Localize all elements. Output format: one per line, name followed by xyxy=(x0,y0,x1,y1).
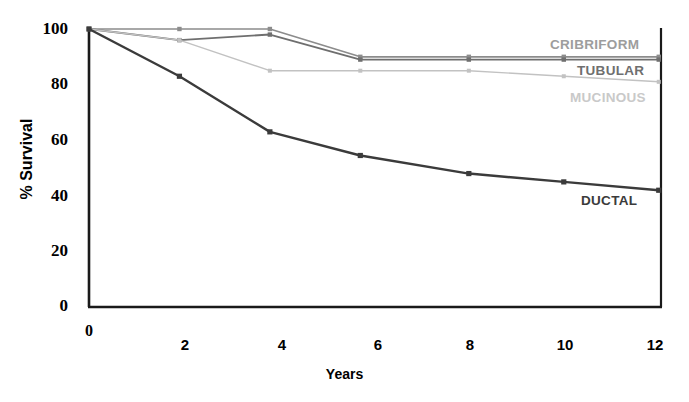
data-point-marker xyxy=(657,80,661,84)
y-tick-40: 40 xyxy=(22,186,68,206)
x-tick-2: 2 xyxy=(165,336,205,353)
series-label-ductal: DUCTAL xyxy=(581,193,637,208)
series-line-ductal xyxy=(89,29,659,190)
y-tick-100: 100 xyxy=(22,19,68,39)
data-point-marker xyxy=(177,74,182,79)
data-point-marker xyxy=(268,27,272,31)
y-tick-80: 80 xyxy=(22,74,68,94)
y-tick-60: 60 xyxy=(22,130,68,150)
x-axis-title: Years xyxy=(0,366,689,382)
data-point-marker xyxy=(177,38,181,42)
x-tick-10: 10 xyxy=(545,336,585,353)
data-point-marker xyxy=(86,26,91,31)
data-point-marker xyxy=(466,171,471,176)
data-point-marker xyxy=(358,57,362,61)
data-point-marker xyxy=(177,27,181,31)
data-point-marker xyxy=(358,153,363,158)
x-tick-6: 6 xyxy=(358,336,398,353)
data-point-marker xyxy=(657,57,661,61)
x-tick-0: 0 xyxy=(69,322,109,340)
x-tick-4: 4 xyxy=(262,336,302,353)
plot-frame xyxy=(88,28,662,307)
series-label-mucinous: MUCINOUS xyxy=(570,90,646,105)
data-point-marker xyxy=(562,74,566,78)
data-point-marker xyxy=(268,69,272,73)
data-point-marker xyxy=(467,57,471,61)
data-point-marker xyxy=(358,69,362,73)
data-point-marker xyxy=(656,188,661,193)
survival-chart: % Survival Years 100 80 60 40 20 0 0 2 4… xyxy=(0,0,689,402)
y-tick-20: 20 xyxy=(22,241,68,261)
x-tick-8: 8 xyxy=(450,336,490,353)
y-tick-0: 0 xyxy=(22,296,68,316)
data-point-marker xyxy=(268,32,272,36)
x-tick-12: 12 xyxy=(635,336,675,353)
data-point-marker xyxy=(561,179,566,184)
series-mucinous xyxy=(87,27,661,84)
series-label-tubular: TUBULAR xyxy=(577,63,644,78)
series-label-cribriform: CRIBRIFORM xyxy=(550,37,639,52)
data-point-marker xyxy=(467,69,471,73)
data-point-marker xyxy=(267,129,272,134)
data-point-marker xyxy=(562,57,566,61)
